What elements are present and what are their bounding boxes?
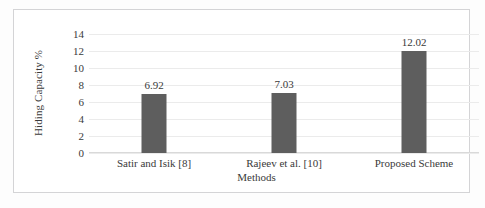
- y-tick-label: 10: [62, 63, 84, 74]
- bar[interactable]: [272, 93, 297, 153]
- plot-area: 6.927.0312.02: [89, 34, 479, 153]
- y-tick-label: 2: [62, 131, 84, 142]
- bar-group: 6.92: [89, 34, 219, 153]
- y-tick-label: 12: [62, 46, 84, 57]
- bar-group: 12.02: [349, 34, 479, 153]
- gridline: [89, 153, 479, 154]
- y-tick-label: 14: [62, 29, 84, 40]
- bar-value-label: 12.02: [349, 36, 479, 48]
- y-tick-label: 4: [62, 114, 84, 125]
- chart-figure: Hiding Capacity % 14 12 10 8 6 4 2 0 6.9…: [0, 0, 485, 208]
- bar-value-label: 6.92: [89, 79, 219, 91]
- bar-value-label: 7.03: [219, 78, 349, 90]
- x-axis-title: Methods: [14, 171, 485, 183]
- y-tick-label: 0: [62, 148, 84, 159]
- bar[interactable]: [142, 94, 167, 153]
- category-label: Satir and Isik [8]: [89, 157, 219, 169]
- y-tick-label: 8: [62, 80, 84, 91]
- category-label: Rajeev et al. [10]: [219, 157, 349, 169]
- y-axis-title: Hiding Capacity %: [32, 28, 44, 158]
- y-tick-label: 6: [62, 97, 84, 108]
- category-label: Proposed Scheme: [349, 157, 479, 169]
- bar[interactable]: [402, 51, 427, 153]
- chart-frame: Hiding Capacity % 14 12 10 8 6 4 2 0 6.9…: [13, 9, 470, 193]
- bar-group: 7.03: [219, 34, 349, 153]
